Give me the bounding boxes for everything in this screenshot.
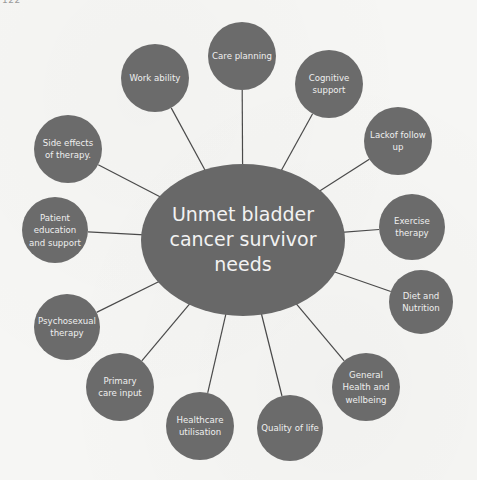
node-patient-education-and-support: Patienteducationand support	[22, 197, 88, 263]
connector-primary-care-input	[142, 303, 191, 361]
node-lack-of-follow-up: Lackof followup	[364, 107, 432, 175]
connector-cognitive-support	[281, 114, 313, 172]
node-label-line: utilisation	[179, 427, 221, 437]
node-label-line: Health and	[342, 382, 389, 392]
center-label-line: Unmet bladder	[172, 203, 314, 225]
center-label-line: needs	[214, 253, 271, 275]
node-label-line: General	[349, 369, 383, 379]
connector-general-health-and-wellbeing	[295, 303, 344, 361]
node-label-line: Cognitive	[309, 72, 350, 82]
node-label-line: Exercise	[394, 215, 430, 225]
node-label-line: Patient	[40, 212, 71, 222]
node-label-line: education	[34, 225, 77, 235]
node-quality-of-life: Quality of life	[257, 395, 323, 461]
connector-quality-of-life	[261, 313, 282, 397]
node-label-line: Care planning	[212, 51, 272, 61]
node-label-line: Side effects	[43, 137, 94, 147]
node-label-line: care input	[98, 388, 142, 398]
node-label-line: Work ability	[130, 73, 181, 83]
node-label: GeneralHealth andwellbeing	[342, 369, 389, 404]
node-label-line: Diet and	[403, 290, 440, 300]
node-healthcare-utilisation: Healthcareutilisation	[166, 392, 234, 460]
unmet-needs-diagram: Unmet bladdercancer survivorneeds Care p…	[0, 0, 477, 480]
connector-exercise-therapy	[341, 230, 379, 233]
connector-healthcare-utilisation	[208, 313, 227, 393]
node-label: Quality of life	[261, 423, 319, 433]
node-label-line: Primary	[103, 375, 136, 385]
node-label-line: up	[393, 142, 404, 152]
connector-work-ability	[171, 108, 206, 172]
node-label-line: Healthcare	[177, 414, 224, 424]
node-label-line: Quality of life	[261, 423, 319, 433]
node-label-line: Nutrition	[402, 303, 440, 313]
connector-diet-and-nutrition	[333, 271, 391, 291]
node-label: Care planning	[212, 51, 272, 61]
node-primary-care-input: Primarycare input	[86, 353, 154, 421]
connector-side-effects-of-therapy	[98, 165, 162, 198]
node-cognitive-support: Cognitivesupport	[295, 50, 363, 118]
node-label-line: wellbeing	[345, 394, 386, 404]
node-label-line: Psychosexual	[38, 315, 96, 325]
center-label-line: cancer survivor	[169, 228, 316, 250]
node-label: Work ability	[130, 73, 181, 83]
node-work-ability: Work ability	[121, 44, 189, 112]
node-label-line: therapy	[50, 328, 83, 338]
node-label-line: Lackof follow	[370, 129, 426, 139]
node-general-health-and-wellbeing: GeneralHealth andwellbeing	[332, 353, 400, 421]
node-exercise-therapy: Exercisetherapy	[379, 194, 445, 260]
connector-patient-education-and-support	[88, 232, 144, 235]
node-diet-and-nutrition: Diet andNutrition	[389, 270, 453, 334]
center-node: Unmet bladdercancer survivorneeds	[141, 164, 345, 316]
node-psychosexual-therapy: Psychosexualtherapy	[34, 294, 100, 360]
diagram-page: 122 Unmet bladdercancer survivorneeds Ca…	[0, 0, 477, 480]
node-label-line: support	[313, 85, 347, 95]
node-label-line: therapy	[395, 228, 428, 238]
connector-psychosexual-therapy	[97, 281, 161, 313]
node-care-planning: Care planning	[208, 22, 276, 90]
node-side-effects-of-therapy: Side effectsof therapy.	[34, 115, 102, 183]
connector-lack-of-follow-up	[318, 159, 369, 192]
node-label-line: of therapy.	[45, 150, 91, 160]
node-label-line: and support	[29, 237, 82, 247]
